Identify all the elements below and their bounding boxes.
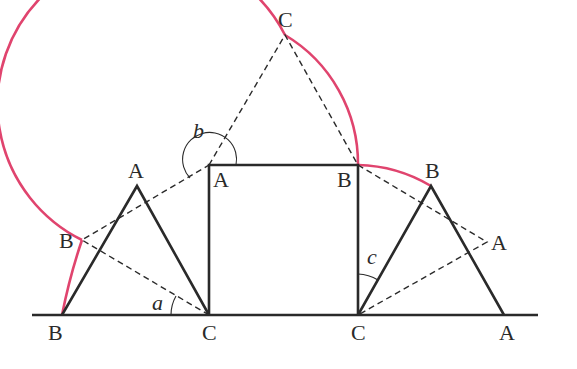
angle-arc-a: [171, 296, 176, 315]
label-right-apex-b: B: [425, 158, 440, 183]
label-square-b: B: [337, 167, 352, 192]
angle-arc-c: [358, 274, 378, 280]
label-angle-a: a: [152, 290, 163, 315]
square: [209, 165, 358, 315]
locus-arc-right: [358, 165, 431, 186]
label-base-left-c: C: [202, 320, 217, 345]
label-top-c: C: [278, 7, 293, 32]
label-angle-b: b: [193, 118, 204, 143]
label-angle-c: c: [367, 244, 377, 269]
right-triangle: [358, 186, 504, 315]
locus-arc-big: [0, 0, 285, 240]
dashed-left-triangle: [82, 165, 209, 315]
label-right-mid-a: A: [491, 230, 507, 255]
geometry-diagram: C A B A B B A B C C A a b c: [0, 0, 577, 369]
label-left-mid-b: B: [59, 228, 74, 253]
dashed-top-triangle: [209, 35, 358, 165]
label-base-b: B: [48, 320, 63, 345]
label-base-right-c: C: [351, 320, 366, 345]
dashed-right-triangle: [358, 165, 487, 315]
label-left-apex-a: A: [128, 158, 144, 183]
label-square-a: A: [213, 167, 229, 192]
label-base-a: A: [499, 320, 515, 345]
left-triangle: [62, 186, 209, 315]
